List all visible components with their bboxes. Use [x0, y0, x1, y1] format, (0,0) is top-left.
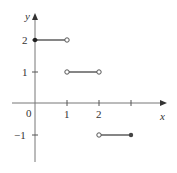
- open-point-icon: [65, 38, 69, 42]
- x-axis-label: x: [159, 110, 165, 122]
- x-axis-arrow-icon: [160, 100, 167, 106]
- y-label-neg1: −1: [14, 129, 26, 141]
- y-axis-arrow-icon: [32, 13, 38, 20]
- closed-point-icon: [129, 133, 133, 137]
- y-axis-label: y: [24, 10, 30, 22]
- y-label-1: 1: [22, 66, 28, 78]
- open-point-icon: [65, 70, 69, 74]
- y-label-2: 2: [22, 34, 28, 46]
- x-label-2: 2: [96, 108, 102, 120]
- origin-label: 0: [26, 107, 32, 119]
- open-point-icon: [97, 133, 101, 137]
- open-point-icon: [97, 70, 101, 74]
- x-label-1: 1: [64, 108, 70, 120]
- step-function-graph: y x 0 1 2 2 1 −1: [0, 0, 177, 173]
- closed-point-icon: [33, 38, 37, 42]
